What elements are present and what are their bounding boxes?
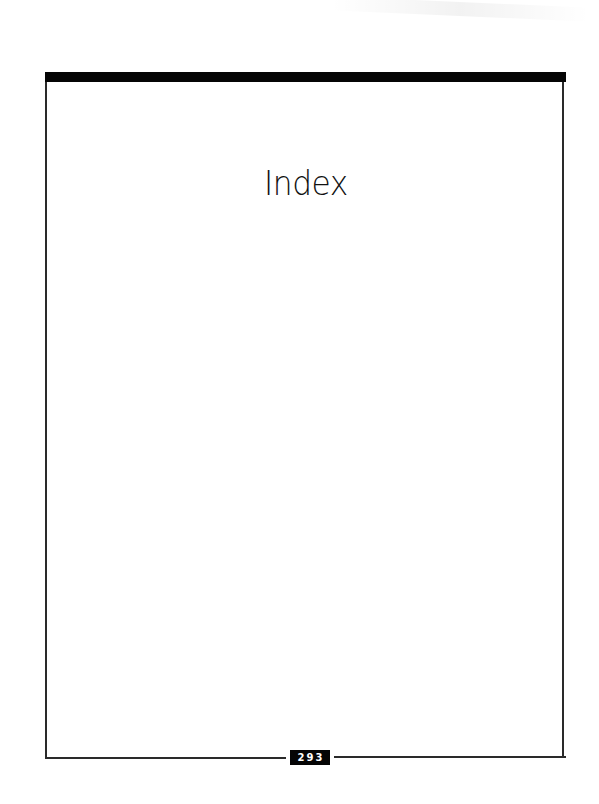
footer-rule-right xyxy=(334,756,566,758)
page-number-badge: 293 xyxy=(290,750,330,765)
page-title: Index xyxy=(24,163,587,203)
header-rule-bar xyxy=(45,72,566,82)
scan-artifact xyxy=(330,0,590,22)
footer-rule-left xyxy=(45,757,286,759)
